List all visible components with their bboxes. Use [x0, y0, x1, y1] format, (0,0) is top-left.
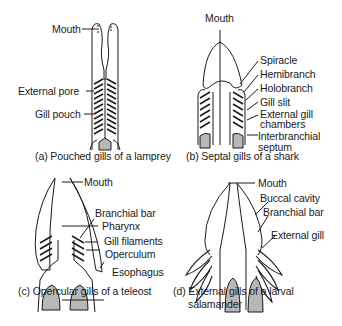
label-d-mouth: Mouth — [258, 178, 287, 189]
label-c-branchial-bar: Branchial bar — [95, 208, 156, 219]
caption-d-line2: salamander — [188, 298, 242, 310]
caption-a: (a) Pouched gills of a lamprey — [35, 150, 171, 162]
lamprey-figure — [82, 24, 120, 150]
label-b-mouth: Mouth — [205, 13, 234, 24]
label-c-mouth: Mouth — [84, 177, 113, 188]
label-c-pharynx: Pharynx — [102, 221, 140, 232]
label-c-operculum: Operculum — [105, 249, 155, 260]
label-b-holobranch: Holobranch — [260, 83, 313, 94]
label-c-gill-filaments: Gill filaments — [104, 236, 163, 247]
label-d-external-gill: External gill — [271, 230, 324, 241]
label-d-buccal-cavity: Buccal cavity — [260, 193, 320, 204]
label-a-mouth: Mouth — [52, 24, 81, 35]
label-b-hemibranch: Hemibranch — [260, 69, 316, 80]
shark-figure — [198, 30, 258, 148]
gill-diagram-artwork — [0, 0, 342, 326]
label-c-esophagus: Esophagus — [112, 267, 164, 278]
label-a-gill-pouch: Gill pouch — [35, 109, 81, 120]
label-b-gill-slit: Gill slit — [260, 97, 290, 108]
caption-b: (b) Septal gills of a shark — [186, 150, 299, 162]
label-b-spiracle: Spiracle — [260, 55, 297, 66]
label-a-external-pore: External pore — [18, 86, 79, 97]
caption-c: (c) Opercular gills of a teleost — [18, 285, 151, 297]
label-d-branchial-bar: Branchial bar — [263, 207, 324, 218]
caption-d-line1: (d) External gills of a larval — [173, 285, 294, 297]
label-b-chambers: chambers — [260, 119, 305, 130]
